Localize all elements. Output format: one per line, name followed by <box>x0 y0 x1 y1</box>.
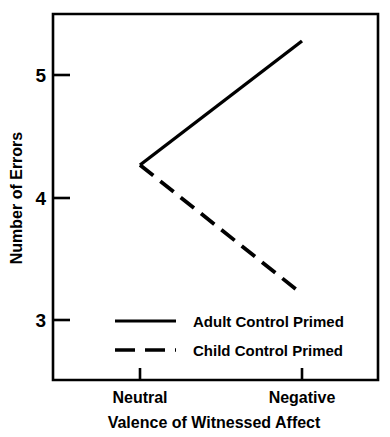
x-category-label-neutral: Neutral <box>112 389 167 406</box>
x-category-label-negative: Negative <box>269 389 336 406</box>
x-axis-title: Valence of Witnessed Affect <box>108 414 321 431</box>
y-axis-title: Number of Errors <box>8 132 25 265</box>
chart-figure: 5 4 3 Neutral Negative Valence of Witnes… <box>0 0 390 437</box>
chart-background <box>0 0 390 437</box>
y-tick-label-3: 3 <box>35 310 46 331</box>
y-tick-label-4: 4 <box>35 188 46 209</box>
line-chart: 5 4 3 Neutral Negative Valence of Witnes… <box>0 0 390 437</box>
y-tick-label-5: 5 <box>35 65 46 86</box>
legend-label-child-control-primed: Child Control Primed <box>193 342 343 359</box>
legend-label-adult-control-primed: Adult Control Primed <box>193 313 344 330</box>
